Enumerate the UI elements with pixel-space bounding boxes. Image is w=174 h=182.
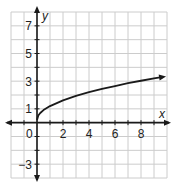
y-tick-label: 1 — [25, 102, 32, 116]
grid — [11, 12, 167, 178]
labels: y x 0 — [26, 9, 166, 141]
y-tick-label: 7 — [25, 19, 32, 33]
x-tick-label: 2 — [60, 127, 67, 141]
x-tick-label: 8 — [138, 127, 145, 141]
chart: 2468−31357 y x 0 — [0, 0, 174, 182]
curve-arrow — [159, 75, 166, 81]
y-tick-label: 3 — [25, 75, 32, 89]
origin-label: 0 — [26, 127, 33, 141]
function-curve — [37, 77, 163, 120]
x-tick-label: 6 — [112, 127, 119, 141]
y-axis-label: y — [41, 9, 49, 23]
x-axis-arrow-left — [5, 120, 12, 126]
ticks: 2468−31357 — [18, 19, 154, 171]
x-axis-label: x — [158, 107, 166, 121]
y-tick-label: −3 — [18, 158, 32, 172]
y-tick-label: 5 — [25, 47, 32, 61]
x-tick-label: 4 — [86, 127, 93, 141]
y-axis-arrow-up — [34, 6, 40, 13]
